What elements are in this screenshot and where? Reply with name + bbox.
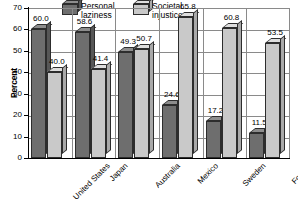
bar-personal-laziness (31, 29, 46, 158)
bar-value-label: 50.7 (131, 34, 157, 43)
bar-societal-injustice (265, 43, 280, 158)
category-separator (159, 9, 160, 158)
y-tick-mark (24, 8, 29, 9)
y-tick-label: 0 (2, 153, 22, 162)
bar-personal-laziness (249, 133, 264, 158)
y-tick-label: 40 (2, 67, 22, 76)
category-label: United States (72, 162, 112, 202)
y-tick-mark (24, 94, 29, 95)
bar-personal-laziness (206, 121, 221, 158)
category-separator (72, 9, 73, 158)
bar-value-label: 53.5 (262, 28, 288, 37)
bar-value-label: 58.6 (72, 17, 98, 26)
y-tick-label: 60 (2, 24, 22, 33)
category-separator (203, 9, 204, 158)
bar-societal-injustice (47, 72, 62, 158)
y-tick-mark (24, 51, 29, 52)
y-tick-label: 70 (2, 3, 22, 12)
bar-societal-injustice (222, 28, 237, 158)
bar-personal-laziness (75, 32, 90, 158)
bar-personal-laziness (118, 52, 133, 158)
bar-value-label: 60.8 (219, 13, 245, 22)
bar-societal-injustice (178, 17, 193, 158)
y-tick-mark (24, 29, 29, 30)
bar-value-label: 41.4 (88, 54, 114, 63)
y-tick-mark (24, 158, 29, 159)
y-tick-label: 50 (2, 46, 22, 55)
y-tick-label: 10 (2, 132, 22, 141)
bar-value-label: 40.0 (44, 57, 70, 66)
y-tick-label: 20 (2, 110, 22, 119)
category-separator (115, 9, 116, 158)
category-label: Sweden (241, 162, 267, 188)
category-label: Mexico (196, 162, 220, 186)
bar-societal-injustice (134, 49, 149, 158)
category-label: Australia (154, 162, 182, 190)
bar-value-label: 60.0 (28, 14, 54, 23)
bar-value-label: 65.8 (175, 2, 201, 11)
y-tick-mark (24, 72, 29, 73)
bar-societal-injustice (91, 69, 106, 158)
category-label: Former West Germany (286, 162, 298, 203)
y-tick-mark (24, 115, 29, 116)
y-axis-title: Percent (9, 55, 19, 111)
y-tick-label: 30 (2, 89, 22, 98)
y-tick-mark (24, 137, 29, 138)
category-label: Japan (108, 162, 129, 183)
x-axis-line (28, 158, 290, 159)
category-separator (246, 9, 247, 158)
bar-chart: Personal laziness Societal injustice Per… (0, 0, 298, 215)
bar-personal-laziness (162, 105, 177, 158)
